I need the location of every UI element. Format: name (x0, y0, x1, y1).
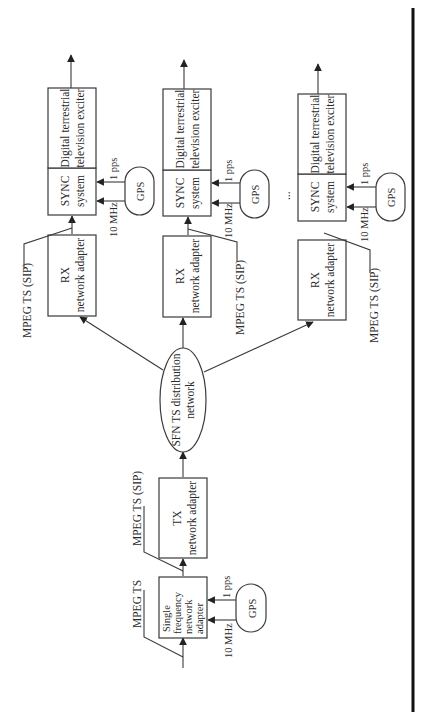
sfn-adapter-group: MPEG TS Single frequency network adapter… (131, 576, 266, 668)
network-to-rx3-arrow (204, 322, 313, 372)
rx-output-label: MPEG TS (SIP) (234, 260, 247, 335)
sync-line1: SYNC (309, 181, 321, 212)
rx-output-label: MPEG TS (SIP) (21, 263, 34, 338)
sync-line2: system (74, 175, 87, 207)
distribution-network-ellipse (160, 348, 206, 452)
receiver-site-2: RX network adapter MPEG TS (SIP) SYNC sy… (163, 60, 269, 335)
rx-output-label: MPEG TS (SIP) (368, 268, 381, 343)
rx-adapter-box (163, 236, 211, 317)
sync-line2: system (324, 181, 337, 213)
sync-line2: system (189, 177, 202, 209)
exciter-line1: Digital terrestrial (59, 89, 72, 168)
exciter-box (48, 88, 96, 168)
exciter-line2: television exciter (189, 89, 201, 168)
rx-line1: RX (59, 266, 71, 283)
gps-label: GPS (135, 182, 146, 201)
sfn-adapter-line2: frequency (172, 591, 183, 634)
ref-10mhz-label: 10 MHz (108, 202, 119, 237)
distribution-line2: network (184, 381, 196, 419)
exciter-box (163, 89, 211, 170)
gps-label: GPS (247, 599, 258, 618)
tx-output-label: MPEG TS (SIP) (131, 471, 144, 546)
rx-line1: RX (174, 267, 186, 284)
ref-1pps-label: 1 pps (359, 163, 370, 185)
sfn-diagram: MPEG TS Single frequency network adapter… (0, 0, 422, 721)
ref-10mhz-label: 10 MHz (223, 203, 234, 238)
sync-line1: SYNC (59, 175, 71, 206)
input-label: MPEG TS (131, 580, 143, 628)
rx-line2: network adapter (189, 239, 202, 314)
tx-adapter-line1: TX (171, 510, 183, 526)
sfn-adapter-line3: network (183, 599, 194, 634)
exciter-line2: television exciter (74, 88, 86, 167)
network-to-rx1-arrow (80, 317, 163, 370)
tx-adapter-box (159, 478, 207, 558)
sfn-adapter-line4: adapter (194, 603, 205, 634)
ref-10mhz-label: 10 MHz (223, 623, 234, 658)
exciter-box (298, 94, 346, 174)
sync-system-box (298, 174, 346, 221)
sync-line1: SYNC (174, 177, 186, 208)
ref-1pps-label: 1 pps (221, 576, 232, 598)
tx-adapter-line2: network adapter (186, 481, 199, 556)
rx-adapter-box (298, 240, 346, 320)
tx-adapter-group: MPEG TS (SIP) TX network adapter (131, 452, 207, 576)
sfn-adapter-line1: Single (161, 605, 172, 632)
rx-adapter-box (48, 235, 96, 316)
rx-line2: network adapter (74, 238, 87, 313)
ref-1pps-label: 1 pps (223, 160, 234, 182)
distribution-line1: SFN TS distribution (170, 353, 182, 446)
gps-label: GPS (250, 185, 261, 204)
sync-system-box (163, 170, 211, 216)
rx-line1: RX (309, 271, 321, 288)
rx-line2: network adapter (324, 243, 337, 318)
sync-system-box (48, 168, 96, 215)
receiver-site-3: RX network adapter MPEG TS (SIP) SYNC sy… (298, 64, 405, 343)
ref-1pps-label: 1 pps (108, 158, 119, 180)
exciter-line1: Digital terrestrial (174, 90, 187, 169)
gps-label: GPS (386, 188, 397, 207)
ref-10mhz-label: 10 MHz (359, 207, 370, 242)
exciter-line1: Digital terrestrial (309, 95, 322, 174)
more-sites-ellipsis: ... (280, 191, 292, 200)
receiver-site-1: RX network adapter MPEG TS (SIP) SYNC sy… (21, 55, 154, 338)
exciter-line2: television exciter (324, 94, 336, 173)
distribution-network-group: SFN TS distribution network (80, 317, 313, 452)
